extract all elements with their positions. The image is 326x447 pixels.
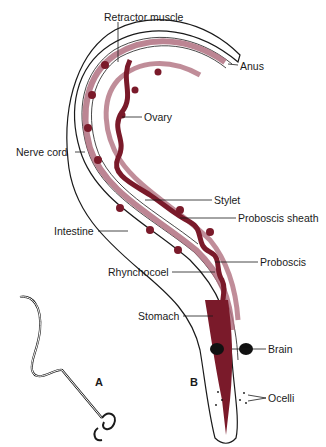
stomach [205, 300, 232, 435]
label-stomach: Stomach [138, 311, 179, 322]
label-intestine: Intestine [54, 226, 94, 237]
label-retractor-muscle: Retractor muscle [104, 12, 183, 23]
label-ovary: Ovary [144, 112, 172, 123]
label-ocelli: Ocelli [268, 393, 294, 404]
label-proboscis-sheath: Proboscis sheath [238, 213, 319, 224]
label-proboscis: Proboscis [260, 257, 306, 268]
panel-label-b: B [190, 376, 198, 388]
panel-label-a: A [95, 376, 103, 388]
worm-a [20, 297, 115, 441]
label-nerve-cord: Nerve cord [16, 147, 67, 158]
label-anus: Anus [240, 61, 264, 72]
label-stylet: Stylet [214, 195, 240, 206]
label-rhynchocoel: Rhynchocoel [108, 267, 169, 278]
ocelli [215, 391, 247, 406]
label-brain: Brain [268, 344, 293, 355]
